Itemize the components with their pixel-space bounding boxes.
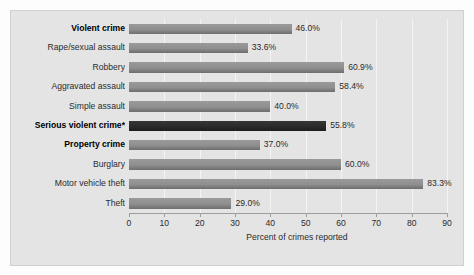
x-axis-tick-label: 30 [221,218,249,228]
x-axis-title: Percent of crimes reported [129,232,465,242]
x-axis-line [129,213,447,214]
x-axis-tick-label: 40 [256,218,284,228]
x-axis-tick [270,213,271,217]
chart-panel: Violent crime46.0%Rape/sexual assault33.… [10,10,464,266]
chart-figure: Violent crime46.0%Rape/sexual assault33.… [0,0,474,275]
bar-track: 29.0% [129,194,465,213]
bar-value-label: 60.9% [348,58,372,77]
bar-track: 40.0% [129,97,465,116]
x-axis-tick-label: 20 [186,218,214,228]
bar-row: Motor vehicle theft83.3% [11,174,465,193]
category-label: Robbery [11,58,125,77]
x-axis-tick [341,213,342,217]
x-axis-tick [412,213,413,217]
bar-value-label: 37.0% [264,135,288,154]
x-axis-tick [376,213,377,217]
bar-value-label: 40.0% [274,97,298,116]
bar-track: 58.4% [129,77,465,96]
x-axis-tick-label: 50 [292,218,320,228]
bar-row: Robbery60.9% [11,58,465,77]
x-axis-tick [447,213,448,217]
bar [129,159,341,169]
category-label: Burglary [11,155,125,174]
bar [129,198,231,208]
x-axis-tick [306,213,307,217]
bar-value-label: 83.3% [427,174,451,193]
bar [129,62,344,72]
bar-track: 46.0% [129,19,465,38]
x-axis-tick-label: 60 [327,218,355,228]
bar [129,179,423,189]
bar [129,24,292,34]
bar-row: Simple assault40.0% [11,97,465,116]
bar-row: Property crime37.0% [11,135,465,154]
plot-area: Violent crime46.0%Rape/sexual assault33.… [11,11,465,267]
x-axis-tick [235,213,236,217]
x-axis-tick-label: 80 [398,218,426,228]
bar-row: Aggravated assault58.4% [11,77,465,96]
bar-track: 33.6% [129,38,465,57]
x-axis-tick [129,213,130,217]
bar-track: 60.9% [129,58,465,77]
bar-row: Theft29.0% [11,194,465,213]
bar [129,82,335,92]
bar-track: 83.3% [129,174,465,193]
bar [129,43,248,53]
bar-row: Violent crime46.0% [11,19,465,38]
category-label: Property crime [11,135,125,154]
category-label: Simple assault [11,97,125,116]
category-label: Serious violent crime* [11,116,125,135]
category-label: Violent crime [11,19,125,38]
bar [129,121,326,131]
bar [129,140,260,150]
bar-track: 60.0% [129,155,465,174]
x-axis-tick [200,213,201,217]
bar-row: Serious violent crime*55.8% [11,116,465,135]
bar-row: Burglary60.0% [11,155,465,174]
bar-value-label: 33.6% [252,38,276,57]
category-label: Aggravated assault [11,77,125,96]
x-axis-tick [164,213,165,217]
bar-value-label: 29.0% [235,194,259,213]
bar-track: 55.8% [129,116,465,135]
bar-track: 37.0% [129,135,465,154]
x-axis-tick-label: 90 [433,218,461,228]
bar-value-label: 58.4% [339,77,363,96]
bar-row: Rape/sexual assault33.6% [11,38,465,57]
bar-value-label: 60.0% [345,155,369,174]
category-label: Rape/sexual assault [11,38,125,57]
x-axis-tick-label: 10 [150,218,178,228]
bar [129,101,270,111]
category-label: Theft [11,194,125,213]
x-axis-tick-label: 0 [115,218,143,228]
x-axis-tick-label: 70 [362,218,390,228]
category-label: Motor vehicle theft [11,174,125,193]
bar-value-label: 46.0% [296,19,320,38]
bar-value-label: 55.8% [330,116,354,135]
